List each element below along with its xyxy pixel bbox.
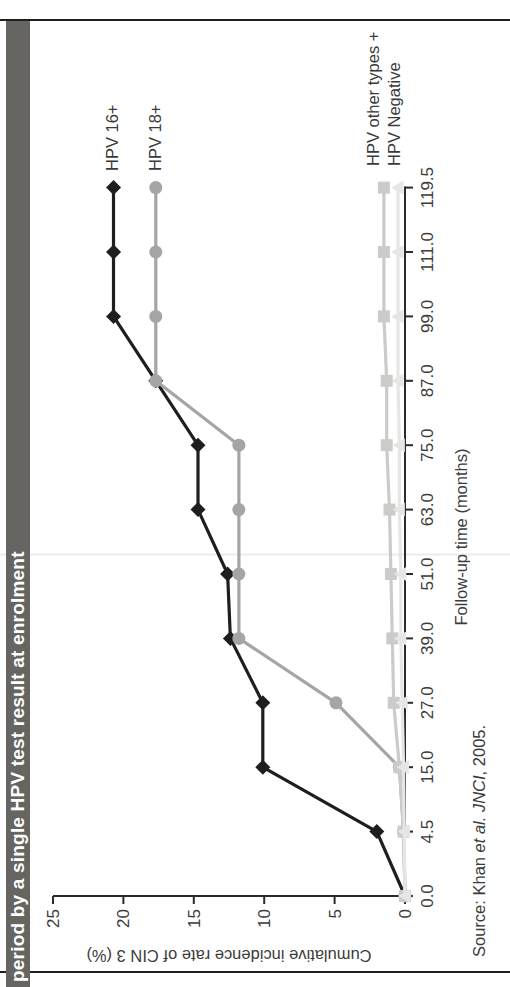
data-point-marker — [232, 632, 245, 645]
legend-hpv16: HPV 16+ — [103, 105, 122, 172]
x-tick-label: 99.0 — [418, 300, 437, 333]
x-tick-label: 4.5 — [418, 820, 437, 844]
data-point-marker — [255, 760, 270, 775]
data-point-marker — [191, 502, 206, 517]
data-point-marker — [381, 439, 393, 451]
slide-border-right — [0, 19, 510, 21]
data-point-marker — [232, 568, 245, 581]
data-point-marker — [232, 503, 245, 516]
x-tick-label: 0.0 — [418, 884, 437, 908]
y-tick-label: 0 — [396, 909, 415, 918]
slide: 05101520250.04.515.027.039.051.063.075.0… — [0, 0, 510, 987]
legend-hpv18: HPV 18+ — [146, 105, 165, 172]
x-tick-label: 119.5 — [418, 167, 437, 208]
y-tick-label: 25 — [44, 909, 63, 928]
legend-other-block: HPV other types + HPV Negative — [363, 32, 405, 166]
x-tick-label: 75.0 — [418, 429, 437, 462]
series-line-2 — [384, 188, 405, 896]
legend-hpv-other: HPV other types + — [363, 32, 384, 166]
source-suffix: , 2005. — [470, 725, 488, 775]
chart-canvas: 05101520250.04.515.027.039.051.063.075.0… — [0, 0, 510, 987]
data-point-marker — [378, 182, 390, 194]
legend-hpv-negative: HPV Negative — [384, 32, 405, 166]
data-point-marker — [106, 245, 121, 260]
y-tick-label: 20 — [114, 909, 133, 928]
x-axis-title: Follow-up time (months) — [452, 449, 471, 626]
x-tick-label: 39.0 — [418, 622, 437, 655]
y-tick-label: 15 — [185, 909, 204, 928]
y-axis-title: Cumulative incidence rate of CIN 3 (%) — [86, 946, 371, 965]
rotated-slide: 05101520250.04.515.027.039.051.063.075.0… — [0, 0, 510, 987]
data-point-marker — [232, 439, 245, 452]
data-point-marker — [149, 246, 162, 259]
data-point-marker — [369, 824, 384, 839]
data-point-marker — [106, 180, 121, 195]
y-tick-label: 10 — [255, 909, 274, 928]
source-italic: et al. JNCI — [470, 775, 488, 852]
y-tick-label: 5 — [326, 909, 345, 918]
data-point-marker — [330, 696, 343, 709]
data-point-marker — [255, 695, 270, 710]
x-tick-label: 63.0 — [418, 493, 437, 526]
x-tick-label: 111.0 — [418, 232, 437, 272]
slide-title: period by a single HPV test result at en… — [7, 551, 29, 982]
x-tick-label: 51.0 — [418, 557, 437, 590]
data-point-marker — [149, 181, 162, 194]
series-line-1 — [156, 188, 405, 896]
x-tick-label: 27.0 — [418, 686, 437, 719]
data-point-marker — [149, 374, 162, 387]
data-point-marker — [149, 310, 162, 323]
slide-border-left — [0, 971, 510, 973]
source-prefix: Source: Khan — [470, 852, 488, 957]
data-point-marker — [378, 246, 390, 258]
x-tick-label: 15.0 — [418, 751, 437, 784]
source-citation: Source: Khan et al. JNCI, 2005. — [470, 725, 489, 957]
data-point-marker — [378, 310, 390, 322]
data-point-marker — [381, 375, 393, 387]
x-tick-label: 87.0 — [418, 364, 437, 397]
slide-title-bar: period by a single HPV test result at en… — [6, 21, 30, 987]
